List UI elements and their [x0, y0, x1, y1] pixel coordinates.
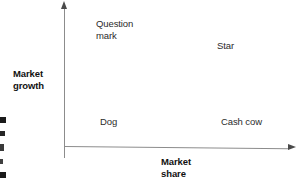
quadrant-label-cash-cow: Cash cow: [221, 116, 262, 128]
page-edge-fragment: [0, 144, 4, 151]
page-edge-fragment: [0, 117, 6, 123]
y-axis-title: Market growth: [13, 68, 44, 92]
page-edge-fragment: [0, 159, 3, 164]
quadrant-label-star: Star: [217, 40, 234, 52]
quadrant-label-dog: Dog: [100, 116, 117, 128]
vertical-axis-line: [64, 6, 65, 158]
bcg-matrix-figure: Question mark Star Dog Cash cow Market g…: [0, 0, 300, 187]
x-axis-title: Market share: [161, 156, 191, 180]
page-edge-fragment: [0, 172, 6, 178]
right-arrow-icon: [288, 144, 296, 150]
up-arrow-icon: [61, 1, 67, 9]
horizontal-axis-line: [65, 146, 289, 149]
quadrant-label-question-mark: Question mark: [96, 18, 133, 41]
page-edge-fragment: [0, 131, 5, 136]
